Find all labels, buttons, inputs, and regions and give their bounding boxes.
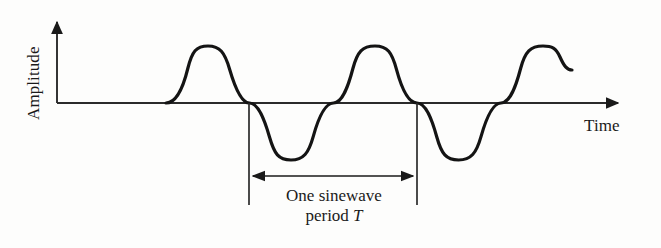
caption-period-word: period (305, 206, 353, 225)
caption-line-two: period T (244, 206, 424, 226)
sinewave-figure: Amplitude Time One sinewave period T (0, 0, 661, 248)
period-annotation-caption: One sinewave period T (244, 186, 424, 226)
y-axis-label: Amplitude (24, 0, 44, 120)
x-axis-label: Time (584, 116, 620, 136)
period-symbol: T (353, 206, 362, 225)
caption-line-one: One sinewave (244, 186, 424, 206)
